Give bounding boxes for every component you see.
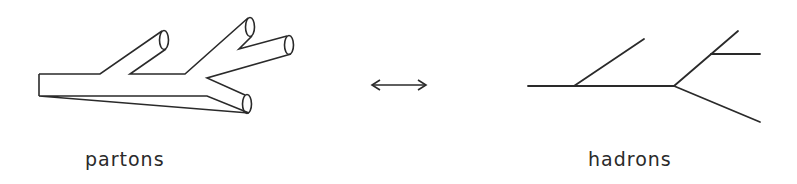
hadron-branch-4 bbox=[674, 86, 760, 122]
parton-tube-end-1 bbox=[160, 31, 169, 50]
parton-tube-end-2 bbox=[246, 18, 255, 37]
hadron-branch-2 bbox=[674, 31, 738, 86]
partons-label: partons bbox=[85, 148, 165, 170]
parton-tube-end-3 bbox=[285, 36, 294, 55]
hadrons-label: hadrons bbox=[588, 148, 672, 170]
double-arrow-icon bbox=[372, 80, 426, 90]
hadron-branch-1 bbox=[574, 39, 644, 86]
parton-tube-diagram bbox=[39, 18, 294, 114]
parton-tube-end-4 bbox=[243, 95, 252, 114]
hadron-line-diagram bbox=[528, 31, 760, 122]
